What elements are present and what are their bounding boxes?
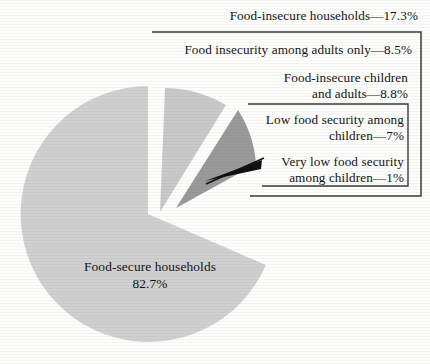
label-food-secure-line2: 82.7%: [62, 275, 238, 292]
label-children-adults-line2: and adults—8.8%: [284, 86, 408, 102]
label-very-low-food-security-children: Very low food security among children—1%: [281, 154, 404, 185]
label-low-security-line1: Low food security among: [266, 112, 404, 128]
label-children-adults-line1: Food-insecure children: [284, 70, 408, 86]
label-food-secure-line1: Food-secure households: [62, 258, 238, 275]
label-low-food-security-children: Low food security among children—7%: [266, 112, 404, 143]
label-food-secure-households: Food-secure households 82.7%: [62, 258, 238, 292]
label-very-low-line2: among children—1%: [281, 170, 404, 186]
pie-chart-figure: Food-insecure households—17.3% Food inse…: [0, 0, 430, 364]
label-low-security-line2: children—7%: [266, 128, 404, 144]
label-very-low-line1: Very low food security: [281, 154, 404, 170]
label-food-insecurity-adults-only: Food insecurity among adults only—8.5%: [184, 42, 412, 58]
label-food-insecure-households: Food-insecure households—17.3%: [230, 8, 418, 24]
label-food-insecure-children-and-adults: Food-insecure children and adults—8.8%: [284, 70, 408, 101]
